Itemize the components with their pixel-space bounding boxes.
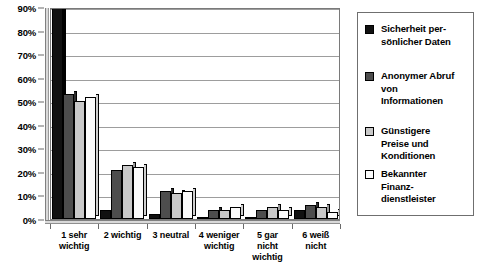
bar-front-face xyxy=(74,101,85,219)
bar-front-face xyxy=(256,210,267,219)
x-axis-spine xyxy=(45,220,340,224)
y-axis-tick-marks xyxy=(38,8,45,220)
bar xyxy=(219,210,230,219)
bar-front-face xyxy=(245,217,256,219)
legend-swatch-icon xyxy=(365,170,374,179)
y-axis-tick-label: 0% xyxy=(23,215,36,226)
plot-grid-box xyxy=(50,8,340,220)
bar xyxy=(111,170,122,219)
bar-front-face xyxy=(197,217,208,219)
y-axis-spine xyxy=(45,8,49,220)
bar xyxy=(278,210,289,219)
y-axis-tick-mark xyxy=(38,31,44,32)
y-axis-tick-label: 70% xyxy=(18,50,36,61)
bar xyxy=(267,207,278,219)
bar-front-face xyxy=(111,170,122,219)
legend-item[interactable]: Sicherheit per- sönlicher Daten xyxy=(365,23,451,48)
x-axis-tick-mark xyxy=(340,224,341,229)
bar xyxy=(197,217,208,219)
y-axis-tick-labels: 90%80%70%60%50%40%30%20%10%0% xyxy=(0,8,36,220)
bar-front-face xyxy=(52,8,63,219)
bar-group xyxy=(244,9,292,219)
x-axis-tick-mark xyxy=(98,224,99,229)
x-axis-tick-mark xyxy=(195,224,196,229)
x-axis-category-label: 2 wichtig xyxy=(98,230,146,241)
bar-group xyxy=(51,9,99,219)
bar-group xyxy=(196,9,244,219)
bar xyxy=(122,165,133,219)
y-axis-tick-label: 90% xyxy=(18,3,36,14)
x-axis-category-label: 4 weniger wichtig xyxy=(195,230,243,252)
legend-swatch-icon xyxy=(365,72,374,81)
legend-item[interactable]: Bekannter Finanz- dienstleister xyxy=(365,168,436,206)
legend-label: Anonymer Abruf von Informationen xyxy=(381,70,454,108)
y-axis-tick-label: 30% xyxy=(18,144,36,155)
bar-front-face xyxy=(171,193,182,219)
bar-front-face xyxy=(160,191,171,219)
y-axis-tick-mark xyxy=(38,172,44,173)
bar-group xyxy=(148,9,196,219)
x-axis-category-label: 3 neutral xyxy=(147,230,195,241)
y-axis-tick-mark xyxy=(38,78,44,79)
x-axis-tick-mark xyxy=(50,224,51,229)
y-axis-tick-label: 80% xyxy=(18,26,36,37)
bar xyxy=(171,193,182,219)
y-axis-tick-label: 50% xyxy=(18,97,36,108)
plot-area: 90%80%70%60%50%40%30%20%10%0% 1 sehr wic… xyxy=(0,8,348,267)
legend-item[interactable]: Anonymer Abruf von Informationen xyxy=(365,70,454,108)
x-axis-tick-mark xyxy=(243,224,244,229)
y-axis-tick-label: 60% xyxy=(18,73,36,84)
bar-chart-figure: 90%80%70%60%50%40%30%20%10%0% 1 sehr wic… xyxy=(0,0,479,267)
bar-front-face xyxy=(85,97,96,219)
bar xyxy=(63,94,74,219)
bar-front-face xyxy=(327,212,338,219)
bar-group xyxy=(293,9,340,219)
y-axis-tick-mark xyxy=(38,196,44,197)
y-axis-tick-mark xyxy=(38,149,44,150)
bar-group xyxy=(99,9,147,219)
bar-front-face xyxy=(208,210,219,219)
bar-front-face xyxy=(316,207,327,219)
bar xyxy=(85,97,96,219)
x-axis-category-label: 5 gar nicht wichtig xyxy=(243,230,291,263)
bar-side-face xyxy=(338,209,340,216)
y-axis-tick-mark xyxy=(38,8,44,9)
bar-front-face xyxy=(230,207,241,219)
y-axis-tick-mark xyxy=(38,125,44,126)
bar-front-face xyxy=(294,210,305,219)
legend-swatch-icon xyxy=(365,25,374,34)
bar-front-face xyxy=(149,214,160,219)
legend-item[interactable]: Günstigere Preise und Konditionen xyxy=(365,125,435,163)
bar-front-face xyxy=(100,210,111,219)
bar-front-face xyxy=(63,94,74,219)
bar-front-face xyxy=(182,191,193,219)
y-axis-tick-label: 40% xyxy=(18,120,36,131)
bar xyxy=(305,205,316,219)
bar-front-face xyxy=(267,207,278,219)
bar xyxy=(230,207,241,219)
bar-front-face xyxy=(305,205,316,219)
y-axis-tick-mark xyxy=(38,102,44,103)
bar xyxy=(316,207,327,219)
y-axis-tick-mark xyxy=(38,220,44,221)
x-axis-category-labels: 1 sehr wichtig2 wichtig3 neutral4 wenige… xyxy=(50,230,340,267)
bar xyxy=(133,167,144,219)
bar xyxy=(208,210,219,219)
bar xyxy=(327,212,338,219)
legend-label: Sicherheit per- sönlicher Daten xyxy=(381,23,451,48)
legend-label: Bekannter Finanz- dienstleister xyxy=(381,168,436,206)
bar xyxy=(256,210,267,219)
bar xyxy=(245,217,256,219)
bar-front-face xyxy=(122,165,133,219)
x-axis-category-label: 6 weiß nicht xyxy=(292,230,340,252)
x-axis-tick-mark xyxy=(292,224,293,229)
x-axis-category-label: 1 sehr wichtig xyxy=(50,230,98,252)
chart-legend: Sicherheit per- sönlicher DatenAnonymer … xyxy=(357,12,474,216)
bar xyxy=(52,8,63,219)
y-axis-tick-mark xyxy=(38,55,44,56)
x-axis-tick-mark xyxy=(147,224,148,229)
bar xyxy=(74,101,85,219)
legend-label: Günstigere Preise und Konditionen xyxy=(381,125,435,163)
bar-front-face xyxy=(219,210,230,219)
bar xyxy=(182,191,193,219)
